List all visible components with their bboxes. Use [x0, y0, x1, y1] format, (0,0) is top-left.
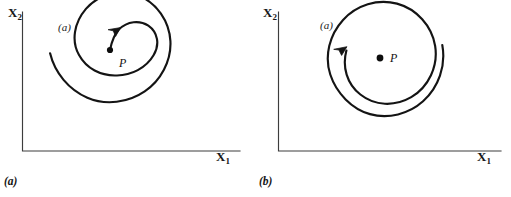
panel-b-graphic — [255, 0, 510, 197]
y-axis-label-sub-a: 2 — [18, 12, 23, 22]
x-axis-label-sub-a: 1 — [226, 156, 231, 166]
x-axis-label-b: X1 — [477, 150, 491, 166]
equilibrium-label-a: P — [119, 57, 126, 69]
equilibrium-label-b: P — [390, 52, 397, 64]
panel-b: X2 X1 (a) P (b) — [255, 0, 510, 197]
y-axis-label-base-a: X — [8, 5, 17, 20]
x-axis-label-sub-b: 1 — [487, 156, 492, 166]
x-axis-label-a: X1 — [216, 150, 230, 166]
panel-caption-a: (a) — [4, 176, 17, 188]
figure-root: X2 X1 (a) P (a) X2 X1 (a) P (b) — [0, 0, 511, 197]
panel-a-graphic — [0, 0, 255, 197]
axis-lines-a — [23, 12, 241, 151]
inline-tag-a: (a) — [58, 22, 71, 33]
direction-arrowhead-a — [108, 23, 123, 38]
y-axis-label-b: X2 — [263, 6, 277, 22]
equilibrium-point-b — [377, 55, 384, 62]
trajectory-group-a — [38, 0, 193, 127]
x-axis-label-base-b: X — [477, 149, 486, 164]
y-axis-label-base-b: X — [263, 5, 272, 20]
axis-lines-b — [279, 12, 502, 151]
inline-tag-b: (a) — [320, 20, 333, 31]
spiral-path-a — [38, 0, 193, 127]
panel-caption-b: (b) — [259, 176, 272, 188]
y-axis-label-sub-b: 2 — [273, 12, 278, 22]
y-axis-label-a: X2 — [8, 6, 22, 22]
x-axis-label-base-a: X — [216, 149, 225, 164]
equilibrium-point-a — [107, 47, 113, 53]
panel-a: X2 X1 (a) P (a) — [0, 0, 255, 197]
